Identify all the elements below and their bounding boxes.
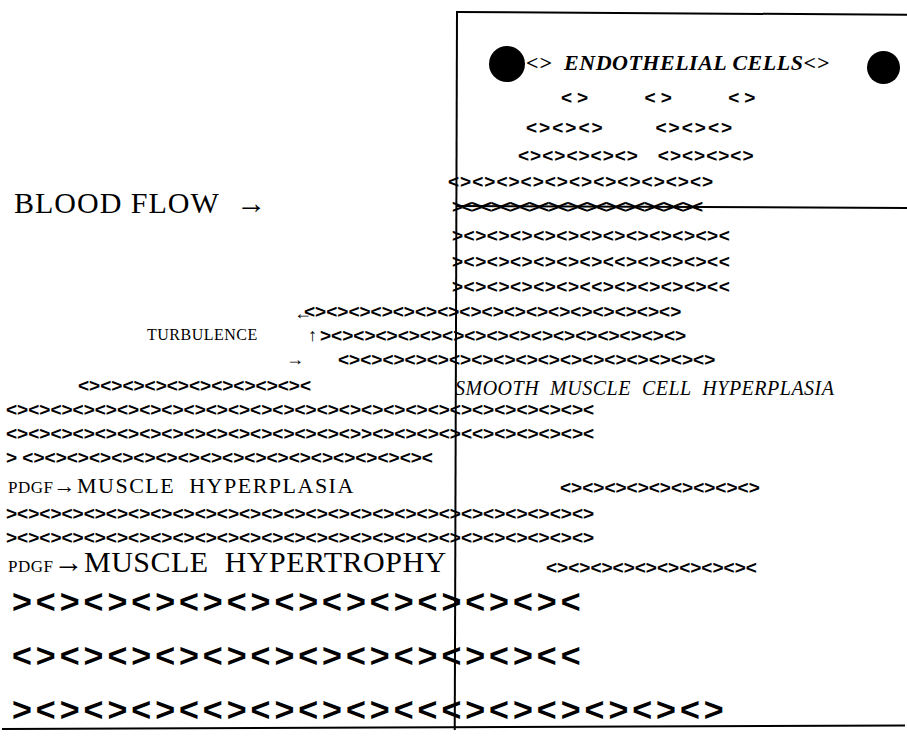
cell-row: <><><><><><><><><><><><><><><><><> bbox=[304, 302, 681, 321]
cell-row: ><><><><><><<><><><><><< bbox=[452, 277, 730, 296]
cell-row: <> <> <> bbox=[561, 88, 760, 107]
cell-row: ><><><><><><><><><><><><><><><><><><><><… bbox=[6, 504, 594, 523]
turbulence-up-arrow-icon: ↑ bbox=[308, 325, 317, 346]
pdgf-hypertrophy-prefix: PDGF bbox=[8, 557, 53, 576]
blood-cell-left-icon bbox=[489, 46, 525, 82]
cell-row: ><><><><><><><><><><><>< bbox=[12, 584, 585, 618]
cell-row: ><><><><><><><><><><><>< bbox=[452, 226, 730, 245]
pdgf-hyperplasia-text: MUSCLE HYPERPLASIA bbox=[77, 473, 355, 498]
top-border-line bbox=[457, 11, 907, 16]
vertical-divider-line bbox=[454, 11, 458, 730]
blood-flow-label: BLOOD FLOW → bbox=[14, 188, 267, 218]
cell-row: <><><><><><><><><>< bbox=[546, 558, 757, 577]
pdgf-hyperplasia-prefix: PDGF bbox=[8, 478, 53, 497]
cell-row: > <><><><><><><><><><><><><><><><><><>< bbox=[6, 448, 433, 467]
turbulence-left-arrow-icon: ← bbox=[294, 303, 312, 324]
pdgf-muscle-hypertrophy-label: PDGF→MUSCLE HYPERTROPHY bbox=[8, 547, 447, 577]
cell-row: <><><><><> <><><><> bbox=[518, 146, 755, 165]
cell-row: <><><><><><><><><><>< bbox=[78, 376, 311, 395]
cell-row: <><><><><><><><><><><><><><><><>><><><><… bbox=[6, 424, 594, 443]
cell-row: <><><><><><><><><><><><><><><><><><><><>… bbox=[6, 400, 594, 419]
pdgf-muscle-hyperplasia-label: PDGF→MUSCLE HYPERPLASIA bbox=[8, 475, 355, 497]
turbulence-right-arrow-icon: → bbox=[286, 349, 304, 370]
pdgf-hyperplasia-arrow-icon: → bbox=[53, 473, 77, 498]
cell-row: <><><><><><><><><><><> bbox=[448, 172, 714, 191]
pdgf-hypertrophy-arrow-icon: → bbox=[53, 545, 84, 578]
cell-row: ><><><><><><><><><><><><><><><><> bbox=[320, 326, 686, 345]
cell-row: ><><><><<><><><><<<><><><><><> bbox=[12, 692, 728, 726]
smooth-muscle-cell-hyperplasia-label: SMOOTH MUSCLE CELL HYPERPLASIA bbox=[455, 378, 835, 398]
diagram-canvas: <> <> <><><><> <><><><><><><><> <><><><>… bbox=[0, 0, 907, 745]
cell-row: <><><><><><><><><><><><< bbox=[12, 638, 585, 672]
pdgf-hypertrophy-text: MUSCLE HYPERTROPHY bbox=[84, 545, 447, 578]
turbulence-label: TURBULENCE bbox=[147, 327, 258, 343]
cell-row: <><><> <><><> bbox=[526, 118, 734, 137]
endothelial-cells-label: <> ENDOTHELIAL CELLS<> bbox=[526, 52, 829, 74]
blood-cell-right-icon bbox=[867, 51, 900, 84]
cell-row: ><><><><><><><><><><><><>< bbox=[452, 197, 702, 216]
cell-row: <><><><><><><><><> bbox=[560, 478, 760, 497]
cell-row: <><><><><><><><><><><><><><><><><> bbox=[338, 350, 715, 369]
cell-row: ><><><><><><><<><><><><< bbox=[452, 252, 730, 271]
